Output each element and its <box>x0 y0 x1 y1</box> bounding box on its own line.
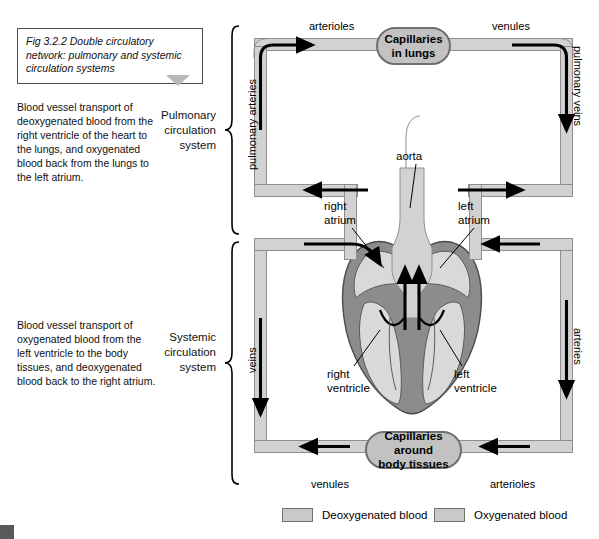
label-veins: veins <box>246 347 258 373</box>
pulmonary-system-label-line3: system <box>124 138 216 153</box>
label-left-ventricle-line1: left <box>454 368 497 382</box>
label-arteries: arteries <box>572 328 584 365</box>
systemic-system-label-line3: system <box>124 360 216 375</box>
label-pulmonary-veins: pulmonary veins <box>572 46 584 126</box>
label-left-atrium-line2: atrium <box>458 214 490 228</box>
pipe-bottom-right <box>449 440 573 453</box>
label-right-atrium-line2: atrium <box>324 214 356 228</box>
capillaries-body-tissues-box: Capillaries around body tissues <box>365 431 462 469</box>
label-left-ventricle-line2: ventricle <box>454 382 497 396</box>
pipe-aorta-to-arteries <box>472 238 573 251</box>
pulmonary-system-label: Pulmonary circulation system <box>124 108 216 153</box>
label-right-atrium: right atrium <box>324 200 356 227</box>
legend-label-oxygenated: Oxygenated blood <box>474 509 567 521</box>
legend-item-oxygenated: Oxygenated blood <box>434 508 567 522</box>
label-right-atrium-line1: right <box>324 200 356 214</box>
label-left-ventricle: left ventricle <box>454 368 497 395</box>
pulmonary-system-brace <box>222 24 242 236</box>
label-right-ventricle-line1: right <box>327 368 370 382</box>
label-right-ventricle: right ventricle <box>327 368 370 395</box>
label-top-venules: venules <box>492 20 530 33</box>
label-bottom-venules: venules <box>311 478 349 491</box>
pipe-vena-cava <box>254 238 354 251</box>
caption-pointer-triangle-icon <box>166 75 190 86</box>
pipe-top-left <box>254 38 378 51</box>
capillaries-in-lungs-line2: in lungs <box>384 46 442 60</box>
heart-illustration <box>240 18 585 488</box>
legend: Deoxygenated blood Oxygenated blood <box>282 505 582 531</box>
pulmonary-system-label-line1: Pulmonary <box>124 108 216 123</box>
label-left-atrium: left atrium <box>458 200 490 227</box>
systemic-system-label-line1: Systemic <box>124 330 216 345</box>
capillaries-body-line2: body tissues <box>367 457 460 471</box>
pipe-pulmonary-vein-to-heart <box>468 184 573 197</box>
figure-root: Fig 3.2.2 Double circulatory network: pu… <box>0 0 599 539</box>
pipe-pulmonary-artery-to-heart <box>254 184 358 197</box>
legend-swatch-oxygenated <box>434 508 465 522</box>
label-aorta: aorta <box>396 150 422 164</box>
systemic-system-label-line2: circulation <box>124 345 216 360</box>
legend-item-deoxygenated: Deoxygenated blood <box>282 508 428 522</box>
pipe-veins <box>254 238 267 453</box>
label-top-arterioles: arterioles <box>309 20 354 33</box>
pipe-bottom-left <box>254 440 378 453</box>
label-right-ventricle-line2: ventricle <box>327 382 370 396</box>
pulmonary-system-label-line2: circulation <box>124 123 216 138</box>
capillaries-body-line1: Capillaries around <box>367 429 460 457</box>
label-bottom-arterioles: arterioles <box>490 478 535 491</box>
systemic-system-brace <box>222 240 242 486</box>
capillaries-in-lungs-line1: Capillaries <box>384 32 442 46</box>
legend-label-deoxygenated: Deoxygenated blood <box>322 509 428 521</box>
systemic-system-label: Systemic circulation system <box>124 330 216 375</box>
capillaries-in-lungs-box: Capillaries in lungs <box>376 27 451 65</box>
page-corner-mark <box>0 525 14 539</box>
legend-swatch-deoxygenated <box>282 508 313 522</box>
label-left-atrium-line1: left <box>458 200 490 214</box>
figure-caption-text: Fig 3.2.2 Double circulatory network: pu… <box>26 35 182 74</box>
label-leader-lines <box>240 18 585 488</box>
label-pulmonary-arteries: pulmonary arteries <box>246 79 258 170</box>
circulation-diagram: Capillaries in lungs Capillaries around … <box>240 18 585 488</box>
pipe-top-right <box>449 38 573 51</box>
flow-arrows <box>240 18 585 488</box>
pulmonary-loop-corners <box>240 18 585 488</box>
